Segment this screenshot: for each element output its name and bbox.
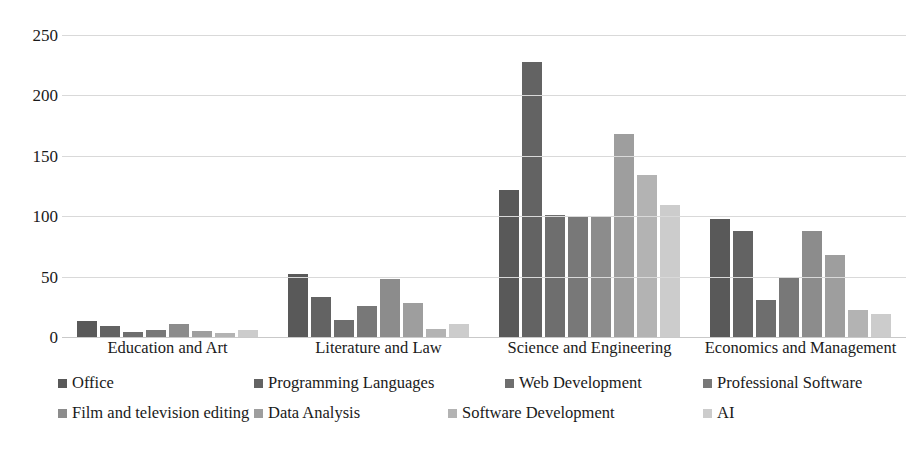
bar-group <box>288 18 469 337</box>
legend-label: Film and television editing <box>72 402 249 424</box>
y-axis: 250200150100500 <box>0 0 58 355</box>
bar[interactable] <box>146 330 166 337</box>
bar[interactable] <box>733 231 753 337</box>
bar[interactable] <box>710 219 730 337</box>
legend-label: Software Development <box>462 402 615 424</box>
bar[interactable] <box>499 190 519 337</box>
bar-group <box>77 18 258 337</box>
bar[interactable] <box>426 329 446 337</box>
y-tick-label-50: 50 <box>6 268 58 285</box>
gridline-50 <box>62 277 906 278</box>
y-tick-label-250: 250 <box>6 27 58 44</box>
bar[interactable] <box>311 297 331 337</box>
legend-item[interactable]: Film and television editing <box>58 402 249 424</box>
legend-item[interactable]: Office <box>58 372 114 394</box>
bar[interactable] <box>288 274 308 337</box>
gridline-100 <box>62 216 906 217</box>
bar[interactable] <box>449 324 469 337</box>
bar[interactable] <box>77 321 97 337</box>
legend-swatch-icon <box>58 409 67 418</box>
legend-swatch-icon <box>703 379 712 388</box>
bar[interactable] <box>848 310 868 337</box>
legend-item[interactable]: Professional Software <box>703 372 862 394</box>
gridline-250 <box>62 35 906 36</box>
bar[interactable] <box>637 175 657 337</box>
bar-group <box>499 18 680 337</box>
chart-legend: OfficeProgramming LanguagesWeb Developme… <box>58 372 908 442</box>
legend-swatch-icon <box>505 379 514 388</box>
category-axis: Education and ArtLiterature and LawScien… <box>62 337 906 363</box>
category-label: Education and Art <box>62 337 273 359</box>
legend-label: Programming Languages <box>268 372 434 394</box>
bar[interactable] <box>660 205 680 337</box>
bars-layer <box>62 0 906 355</box>
bar[interactable] <box>238 330 258 337</box>
bar[interactable] <box>403 303 423 337</box>
legend-label: Web Development <box>519 372 642 394</box>
bar[interactable] <box>779 277 799 337</box>
bar[interactable] <box>100 326 120 337</box>
legend-swatch-icon <box>703 409 712 418</box>
legend-label: Data Analysis <box>268 402 360 424</box>
gridline-200 <box>62 95 906 96</box>
gridline-150 <box>62 156 906 157</box>
bar[interactable] <box>522 62 542 337</box>
bar[interactable] <box>756 300 776 337</box>
legend-item[interactable]: Programming Languages <box>254 372 434 394</box>
bar[interactable] <box>334 320 354 337</box>
y-tick-label-200: 200 <box>6 87 58 104</box>
legend-swatch-icon <box>58 379 67 388</box>
y-tick-label-150: 150 <box>6 147 58 164</box>
category-label: Economics and Management <box>695 337 906 359</box>
bar-group <box>710 18 891 337</box>
legend-item[interactable]: Software Development <box>448 402 615 424</box>
legend-item[interactable]: Data Analysis <box>254 402 360 424</box>
bar[interactable] <box>802 231 822 337</box>
bar[interactable] <box>825 255 845 337</box>
category-label: Literature and Law <box>273 337 484 359</box>
legend-item[interactable]: Web Development <box>505 372 642 394</box>
plot-area: 250200150100500 <box>0 0 912 355</box>
bar[interactable] <box>169 324 189 337</box>
bar[interactable] <box>871 314 891 337</box>
legend-swatch-icon <box>254 379 263 388</box>
bar[interactable] <box>357 306 377 337</box>
legend-label: Office <box>72 372 114 394</box>
legend-item[interactable]: AI <box>703 402 734 424</box>
bar-chart: 250200150100500 Education and ArtLiterat… <box>0 0 912 461</box>
legend-swatch-icon <box>448 409 457 418</box>
legend-label: AI <box>717 402 734 424</box>
legend-label: Professional Software <box>717 372 862 394</box>
category-label: Science and Engineering <box>484 337 695 359</box>
bar[interactable] <box>614 134 634 337</box>
y-tick-label-100: 100 <box>6 208 58 225</box>
y-tick-label-0: 0 <box>6 329 58 346</box>
legend-swatch-icon <box>254 409 263 418</box>
bar[interactable] <box>380 279 400 337</box>
